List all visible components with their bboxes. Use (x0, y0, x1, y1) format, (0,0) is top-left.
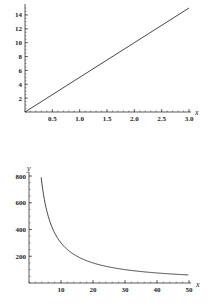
reciprocal-series-line (41, 177, 188, 275)
x-tick-label: 1.0 (75, 115, 84, 123)
y-tick-label: 12 (15, 25, 23, 33)
y-tick-label: 2 (19, 95, 23, 103)
y-tick-label: 8 (19, 53, 23, 61)
x-tick-label: 2.0 (130, 115, 139, 123)
y-tick-label: 6 (19, 67, 23, 75)
x-axis-label: x (194, 108, 199, 117)
y-tick-label: 400 (16, 226, 27, 234)
y-tick-label: 4 (19, 81, 23, 89)
x-axis-label: x (195, 280, 200, 289)
linear-series-line (25, 8, 189, 112)
y-axis-label: y (26, 164, 31, 173)
y-tick-label: 14 (15, 11, 23, 19)
y-tick-label: 200 (16, 253, 27, 261)
x-tick-label: 30 (122, 286, 130, 294)
x-tick-label: 3.0 (185, 115, 194, 123)
chart-linear: 0.51.01.52.02.53.02468101214 x (0, 0, 213, 140)
x-tick-label: 10 (58, 286, 66, 294)
y-tick-label: 600 (16, 199, 27, 207)
x-tick-label: 50 (186, 286, 194, 294)
y-tick-label: 800 (16, 173, 27, 181)
y-tick-label: 10 (15, 39, 23, 47)
x-tick-label: 40 (154, 286, 162, 294)
x-tick-label: 1.5 (103, 115, 112, 123)
x-tick-label: 20 (90, 286, 98, 294)
x-tick-label: 2.5 (157, 115, 166, 123)
x-tick-label: 0.5 (48, 115, 57, 123)
